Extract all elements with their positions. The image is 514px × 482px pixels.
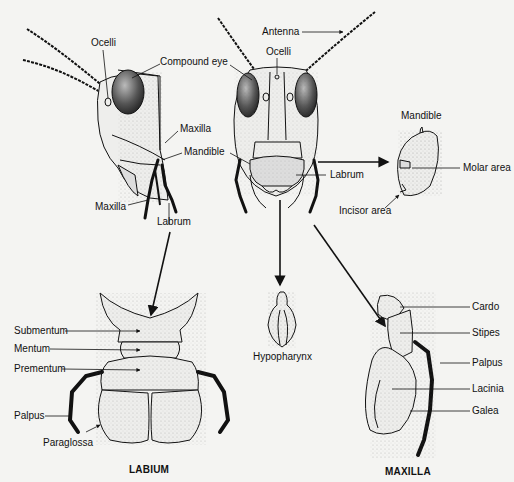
label-galea: Galea [472, 406, 499, 416]
maxilla-drawing [365, 292, 436, 458]
label-side-ocelli: Ocelli [91, 38, 116, 48]
label-side-labrum: Labrum [157, 217, 191, 227]
label-prementum: Prementum [14, 364, 66, 374]
label-front-ocelli: Ocelli [266, 47, 291, 57]
labium-drawing [70, 293, 228, 445]
label-antenna: Antenna [262, 27, 299, 37]
front-view-head [218, 12, 375, 212]
diagram-artwork [0, 0, 514, 482]
label-mandible-title: Mandible [401, 111, 442, 121]
mandible-detail [398, 127, 442, 196]
label-maxilla-palpus: Palpus [472, 358, 503, 368]
caption-maxilla: MAXILLA [385, 467, 431, 477]
label-submentum: Submentum [14, 326, 68, 336]
label-stipes: Stipes [472, 328, 500, 338]
label-cardo: Cardo [472, 302, 499, 312]
label-labium-palpus: Palpus [14, 411, 45, 421]
label-side-maxilla-upper: Maxilla [180, 124, 211, 134]
label-lacinia: Lacinia [472, 384, 504, 394]
label-compound-eye: Compound eye [160, 57, 228, 67]
label-front-labrum: Labrum [330, 170, 364, 180]
label-incisor-area: Incisor area [339, 206, 391, 216]
label-hypopharynx: Hypopharynx [253, 352, 312, 362]
label-mentum: Mentum [14, 344, 50, 354]
label-side-mandible: Mandible [184, 147, 225, 157]
label-side-maxilla-lower: Maxilla [95, 202, 126, 212]
label-molar-area: Molar area [463, 163, 511, 173]
caption-labium: LABIUM [129, 465, 169, 475]
label-paraglossa: Paraglossa [43, 438, 93, 448]
mouthparts-diagram: Ocelli Compound eye Maxilla Mandible Max… [0, 0, 514, 482]
side-view-head [23, 29, 176, 218]
hypopharynx-drawing [268, 292, 296, 348]
